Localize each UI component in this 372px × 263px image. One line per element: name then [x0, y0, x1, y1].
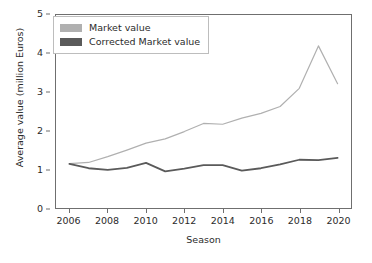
y-tick-mark: [46, 92, 50, 93]
x-tick-label: 2018: [288, 216, 312, 226]
chart-figure: 012345 Average value (million Euros) 200…: [0, 0, 372, 263]
legend-item: Market value: [60, 21, 200, 35]
legend-label: Corrected Market value: [89, 37, 200, 47]
y-axis-ticks: 012345: [0, 14, 50, 209]
x-tick-label: 2008: [95, 216, 119, 226]
legend-swatch: [60, 24, 82, 32]
y-tick-mark: [46, 170, 50, 171]
y-axis-title: Average value (million Euros): [14, 8, 25, 188]
y-tick-label: 1: [37, 165, 43, 175]
y-tick-label: 4: [37, 48, 43, 58]
x-tick-mark: [184, 209, 185, 213]
x-tick-label: 2012: [172, 216, 196, 226]
x-tick-label: 2006: [56, 216, 80, 226]
x-tick-mark: [69, 209, 70, 213]
x-tick-label: 2010: [134, 216, 158, 226]
x-axis-ticks: 20062008201020122014201620182020: [55, 209, 352, 231]
y-tick-label: 5: [37, 9, 43, 19]
y-tick-label: 2: [37, 126, 43, 136]
series-line: [69, 46, 337, 164]
y-tick-mark: [46, 131, 50, 132]
x-tick-label: 2020: [326, 216, 350, 226]
x-tick-mark: [300, 209, 301, 213]
series-line: [69, 158, 337, 172]
x-tick-label: 2016: [249, 216, 273, 226]
y-tick-label: 0: [37, 204, 43, 214]
y-tick-label: 3: [37, 87, 43, 97]
x-tick-label: 2014: [211, 216, 235, 226]
legend-label: Market value: [89, 23, 151, 33]
chart-legend: Market valueCorrected Market value: [53, 16, 209, 54]
x-tick-mark: [339, 209, 340, 213]
x-tick-mark: [146, 209, 147, 213]
x-tick-mark: [261, 209, 262, 213]
y-tick-mark: [46, 209, 50, 210]
legend-item: Corrected Market value: [60, 35, 200, 49]
y-tick-mark: [46, 53, 50, 54]
x-axis-title: Season: [55, 234, 352, 245]
x-tick-mark: [107, 209, 108, 213]
y-tick-mark: [46, 14, 50, 15]
x-tick-mark: [223, 209, 224, 213]
legend-swatch: [60, 38, 82, 46]
